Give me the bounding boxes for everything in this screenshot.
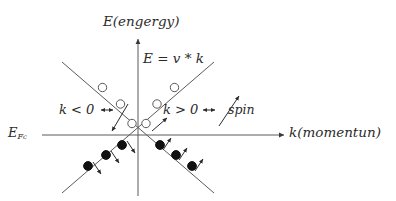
fermi-level-symbol: E xyxy=(8,125,18,140)
k-negative-pointer xyxy=(101,104,128,131)
open-circle-marker xyxy=(128,119,136,127)
spin-arrow-icon xyxy=(152,118,167,131)
open-circle-marker xyxy=(142,119,150,127)
filled-circle-marker xyxy=(188,162,197,171)
spin-arrows-left xyxy=(93,141,135,174)
fermi-level-subscript-c: c xyxy=(23,133,27,141)
spin-arrow-icon xyxy=(111,151,119,163)
diagram-canvas: E(engergy) E = v * k k < 0 k > 0 spin EF… xyxy=(0,0,396,201)
fermi-level-label: EFc xyxy=(8,126,27,141)
filled-circle-marker xyxy=(172,151,181,160)
y-axis-label: E(engergy) xyxy=(103,15,179,29)
open-circle-marker xyxy=(98,83,106,91)
dispersion-equation-label: E = v * k xyxy=(143,52,204,66)
k-negative-label: k < 0 xyxy=(59,103,94,116)
open-circle-marker xyxy=(153,100,161,108)
band-diagram-svg xyxy=(0,0,396,201)
spin-label: spin xyxy=(228,104,254,117)
filled-circle-marker xyxy=(118,141,127,150)
spin-arrow-icon xyxy=(127,141,135,153)
open-circle-marker xyxy=(170,83,178,91)
occupied-state-markers xyxy=(84,141,197,171)
k-positive-label: k > 0 xyxy=(163,103,198,116)
spin-arrow-icon xyxy=(93,162,101,174)
filled-circle-marker xyxy=(156,141,165,150)
x-axis-label: k(momentun) xyxy=(289,126,381,140)
open-circle-marker xyxy=(116,100,124,108)
filled-circle-marker xyxy=(102,151,111,160)
filled-circle-marker xyxy=(84,162,93,171)
